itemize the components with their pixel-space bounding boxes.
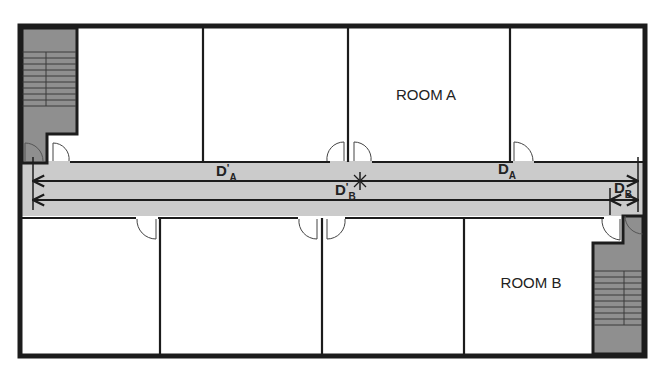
room-a-label: ROOM A xyxy=(396,86,456,103)
room-b-label: ROOM B xyxy=(501,274,562,291)
corridor xyxy=(22,161,643,216)
floor-plan: ROOM A ROOM B D'A D'B DA DB xyxy=(0,0,669,374)
